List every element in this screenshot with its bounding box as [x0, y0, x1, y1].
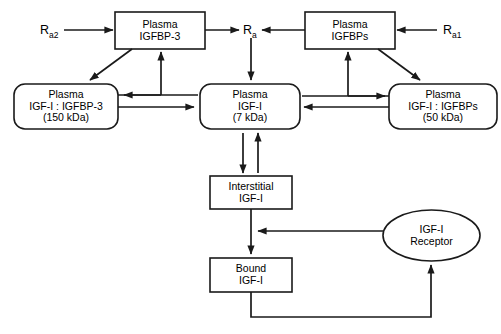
edge-plasma-igfbps-to-complex50 [378, 49, 420, 80]
plasma-igf1-igfbps-shape [389, 84, 497, 129]
diagram-canvas: Plasma IGFBP-3 Plasma IGFBPs Plasma IGF-… [0, 0, 501, 334]
interstitial-igf1-shape [210, 176, 292, 209]
bound-igf1-shape [210, 258, 292, 292]
igf1-receptor-shape [383, 210, 480, 261]
plasma-igfbps-shape [305, 12, 395, 49]
plasma-igf1-shape [200, 84, 300, 129]
rate-label-ra2: Ra2 [40, 24, 59, 39]
plasma-igfbp3-shape [115, 12, 205, 49]
rate-label-ra1: Ra1 [443, 24, 462, 39]
rate-label-ra: Ra [243, 24, 257, 39]
plasma-igf1-igfbp3-shape [14, 84, 118, 129]
edge-plasma-igfbp3-to-complex150 [90, 49, 132, 80]
diagram-graphics [0, 0, 501, 334]
